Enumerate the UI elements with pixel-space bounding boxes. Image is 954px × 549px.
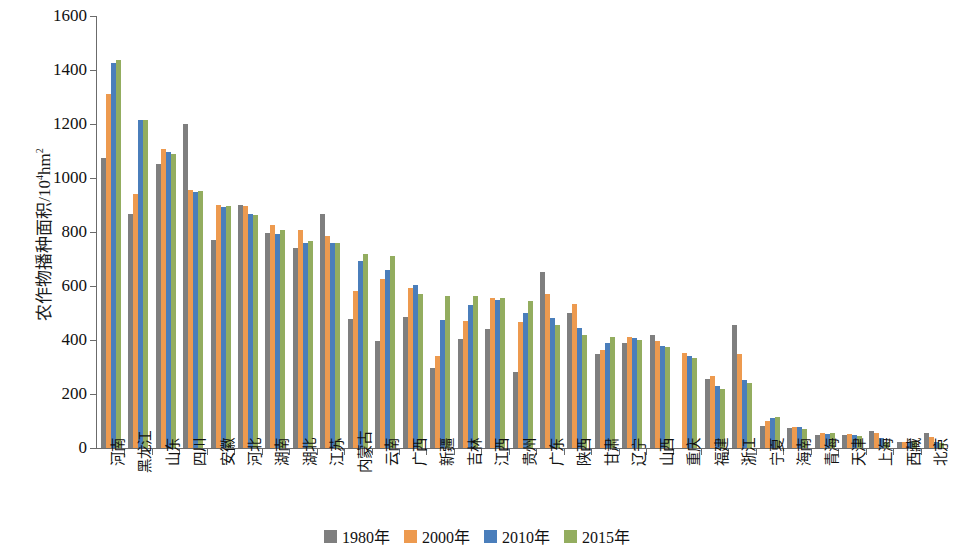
x-axis-label: 浙江: [742, 438, 757, 466]
y-axis-title-text: 农作物播种面积/10: [35, 180, 54, 321]
x-axis-label: 山东: [166, 438, 181, 466]
bar: [500, 298, 505, 448]
y-tick-mark: [90, 124, 96, 125]
bar-group: [317, 16, 344, 448]
x-axis-label: 河南: [111, 438, 126, 466]
x-label-cell: 贵州: [509, 450, 536, 530]
bar: [390, 256, 395, 448]
bar-group: [454, 16, 481, 448]
x-label-cell: 安徽: [207, 450, 234, 530]
y-tick-mark: [90, 394, 96, 395]
x-axis-label: 西藏: [907, 438, 922, 466]
bar-group: [893, 16, 920, 448]
x-axis-label: 宁夏: [770, 438, 785, 466]
bar-group: [646, 16, 673, 448]
bar-group: [701, 16, 728, 448]
x-axis-label: 天津: [852, 438, 867, 466]
plot-area: 02004006008001000120014001600: [96, 16, 948, 448]
x-label-cell: 重庆: [674, 450, 701, 530]
bar-group: [509, 16, 536, 448]
bar-group: [674, 16, 701, 448]
x-label-cell: 青海: [811, 450, 838, 530]
bar: [335, 243, 340, 448]
x-label-cell: 福建: [701, 450, 728, 530]
bar: [665, 347, 670, 448]
bar: [280, 230, 285, 448]
y-tick-label: 1600: [53, 6, 87, 26]
x-label-cell: 湖南: [262, 450, 289, 530]
x-axis-label: 黑龙江: [138, 431, 153, 473]
bar: [116, 60, 121, 448]
bar-group: [921, 16, 948, 448]
x-label-cell: 河南: [97, 450, 124, 530]
y-tick-mark: [90, 178, 96, 179]
x-label-cell: 陕西: [564, 450, 591, 530]
y-tick-mark: [90, 232, 96, 233]
legend-item[interactable]: 2015年: [564, 524, 630, 548]
bar: [610, 337, 615, 449]
x-axis-label: 新疆: [440, 438, 455, 466]
y-tick-label: 1000: [53, 168, 87, 188]
bar-group: [234, 16, 261, 448]
bar-group: [756, 16, 783, 448]
legend-item[interactable]: 1980年: [324, 524, 390, 548]
x-label-cell: 辽宁: [619, 450, 646, 530]
bar: [143, 120, 148, 448]
y-tick-label: 200: [62, 384, 88, 404]
legend-label: 1980年: [342, 524, 390, 548]
bar-group: [783, 16, 810, 448]
x-axis-label: 海南: [797, 438, 812, 466]
bar-group: [811, 16, 838, 448]
x-axis-label: 湖南: [275, 438, 290, 466]
y-tick-label: 1400: [53, 60, 87, 80]
legend-swatch: [484, 530, 497, 543]
bar-group: [372, 16, 399, 448]
bar-group: [207, 16, 234, 448]
x-axis-label: 安徽: [221, 438, 236, 466]
legend-swatch: [324, 530, 337, 543]
x-axis-label: 江西: [495, 438, 510, 466]
x-label-cell: 上海: [866, 450, 893, 530]
legend-item[interactable]: 2010年: [484, 524, 550, 548]
x-label-cell: 海南: [783, 450, 810, 530]
y-axis-title-exponent: 4: [34, 175, 45, 180]
bar: [637, 340, 642, 448]
bar: [418, 294, 423, 448]
x-axis-label: 吉林: [468, 438, 483, 466]
x-label-cell: 山西: [646, 450, 673, 530]
bar: [555, 325, 560, 448]
bar: [473, 296, 478, 448]
x-label-cell: 四川: [179, 450, 206, 530]
y-tick-mark: [90, 16, 96, 17]
bar: [582, 335, 587, 448]
y-axis-title-unit-exponent: 2: [34, 148, 45, 153]
bar-group: [152, 16, 179, 448]
x-axis-label: 河北: [248, 438, 263, 466]
x-label-cell: 天津: [838, 450, 865, 530]
legend-swatch: [404, 530, 417, 543]
x-label-cell: 甘肃: [591, 450, 618, 530]
x-label-cell: 湖北: [289, 450, 316, 530]
x-label-cell: 吉林: [454, 450, 481, 530]
bar-group: [426, 16, 453, 448]
bar-group: [564, 16, 591, 448]
x-label-cell: 江苏: [317, 450, 344, 530]
y-tick-label: 1200: [53, 114, 87, 134]
bar-group: [866, 16, 893, 448]
x-label-cell: 北京: [921, 450, 948, 530]
crop-sown-area-bar-chart: 农作物播种面积/104hm2 0200400600800100012001400…: [0, 0, 954, 549]
x-axis-label: 上海: [879, 438, 894, 466]
x-axis-label: 广东: [550, 438, 565, 466]
bar: [253, 215, 258, 448]
bar: [692, 358, 697, 448]
x-axis-label: 辽宁: [632, 438, 647, 466]
x-axis-labels: 河南黑龙江山东四川安徽河北湖南湖北江苏内蒙古云南广西新疆吉林江西贵州广东陕西甘肃…: [97, 450, 948, 530]
legend-item[interactable]: 2000年: [404, 524, 470, 548]
y-tick-label: 400: [62, 330, 88, 350]
bar-group: [124, 16, 151, 448]
x-label-cell: 新疆: [426, 450, 453, 530]
y-tick-mark: [90, 340, 96, 341]
bar-group: [179, 16, 206, 448]
legend-label: 2000年: [422, 524, 470, 548]
bar: [363, 254, 368, 448]
